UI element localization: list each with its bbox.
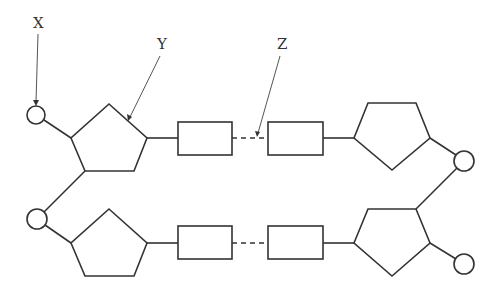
sugar-pentagon xyxy=(354,209,430,276)
phosphate-circle xyxy=(27,209,47,229)
base-rectangle xyxy=(268,122,323,155)
bottom-left-nucleotide xyxy=(27,209,232,276)
phosphate-circle xyxy=(454,254,474,274)
label-z: Z xyxy=(277,35,287,53)
label-y: Y xyxy=(156,35,168,53)
label-x: X xyxy=(33,14,44,32)
phosphate-circle xyxy=(27,106,45,124)
backbone-right xyxy=(416,168,457,209)
bottom-right-nucleotide xyxy=(268,209,474,276)
base-rectangle xyxy=(178,122,232,155)
base-rectangle xyxy=(178,226,232,259)
dna-structure-diagram: X Y Z xyxy=(0,0,497,288)
pointer-x xyxy=(33,34,39,106)
top-right-nucleotide xyxy=(268,103,474,171)
top-left-nucleotide xyxy=(27,104,232,171)
backbone-left xyxy=(44,171,85,212)
sugar-pentagon xyxy=(71,209,147,276)
pointer-y xyxy=(127,56,160,121)
sugar-pentagon xyxy=(354,103,430,170)
base-rectangle xyxy=(268,226,323,259)
sugar-pentagon xyxy=(71,104,147,171)
